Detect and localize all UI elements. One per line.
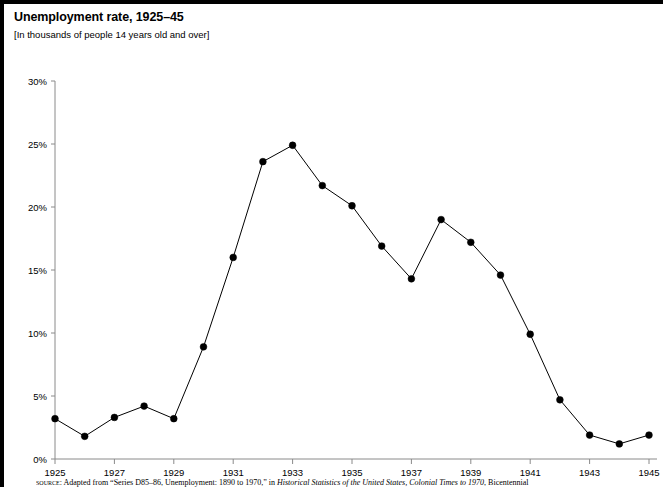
data-point-marker (497, 272, 504, 279)
data-point-marker (141, 403, 148, 410)
x-axis-tick-label: 1931 (223, 467, 244, 478)
data-point-marker (170, 415, 177, 422)
data-point-marker (230, 254, 237, 261)
chart-plot-area: 0%5%10%15%20%25%30%192519271929193119331… (4, 4, 663, 487)
data-point-marker (527, 331, 534, 338)
y-axis-tick-label: 0% (33, 454, 47, 465)
x-axis-tick-label: 1925 (44, 467, 65, 478)
data-point-marker (616, 440, 623, 447)
data-point-marker (646, 432, 653, 439)
data-point-marker (260, 158, 267, 165)
data-point-marker (319, 182, 326, 189)
x-axis-tick-label: 1945 (638, 467, 659, 478)
data-point-marker (52, 415, 59, 422)
data-point-marker (586, 432, 593, 439)
x-axis-tick-label: 1933 (282, 467, 303, 478)
x-axis-tick-label: 1943 (579, 467, 600, 478)
x-axis-tick-label: 1937 (401, 467, 422, 478)
y-axis-tick-label: 15% (28, 265, 48, 276)
x-axis-tick-label: 1935 (341, 467, 362, 478)
data-point-marker (438, 216, 445, 223)
source-text-part1: Adapted from “Series D85–86, Unemploymen… (62, 478, 277, 487)
y-axis-tick-label: 5% (33, 391, 47, 402)
x-axis-tick-label: 1929 (163, 467, 184, 478)
figure-container: Unemployment rate, 1925–45 [In thousands… (0, 0, 663, 487)
data-point-marker (378, 243, 385, 250)
source-note: source: Adapted from “Series D85–86, Une… (36, 478, 663, 487)
data-point-marker (200, 343, 207, 350)
x-axis-tick-label: 1927 (104, 467, 125, 478)
y-axis-tick-label: 20% (28, 202, 48, 213)
y-axis-tick-label: 30% (28, 76, 48, 87)
data-point-marker (557, 396, 564, 403)
data-point-marker (111, 414, 118, 421)
source-citation-title: Historical Statistics of the United Stat… (277, 478, 484, 487)
data-point-marker (349, 202, 356, 209)
data-point-marker (467, 239, 474, 246)
line-chart-svg: 0%5%10%15%20%25%30%192519271929193119331… (4, 4, 663, 487)
x-axis-tick-label: 1941 (520, 467, 541, 478)
source-text-part2: , Bicentennial (484, 478, 528, 487)
data-point-marker (81, 433, 88, 440)
data-point-marker (408, 275, 415, 282)
y-axis-tick-label: 25% (28, 139, 48, 150)
x-axis-tick-label: 1939 (460, 467, 481, 478)
data-point-marker (289, 142, 296, 149)
source-label: source: (36, 478, 62, 487)
y-axis-tick-label: 10% (28, 328, 48, 339)
